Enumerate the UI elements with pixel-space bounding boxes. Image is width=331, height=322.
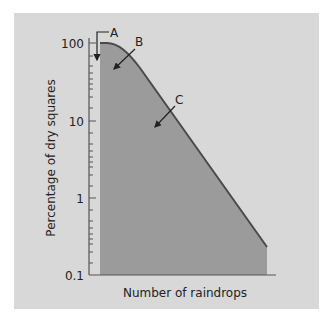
chart: 100 10 1 0.1 Number of raindrops Percent…	[0, 0, 331, 322]
area-fill	[100, 43, 267, 275]
annotation-c: C	[175, 93, 183, 107]
annotation-a: A	[110, 26, 119, 40]
annotation-b: B	[135, 35, 143, 49]
x-axis-label: Number of raindrops	[123, 286, 247, 300]
y-tick-0.1: 0.1	[65, 269, 84, 283]
y-tick-1: 1	[76, 192, 84, 206]
y-tick-10: 10	[69, 115, 84, 129]
y-ticks	[89, 43, 96, 263]
y-axis-label: Percentage of dry squares	[44, 79, 58, 236]
y-tick-100: 100	[61, 37, 84, 51]
